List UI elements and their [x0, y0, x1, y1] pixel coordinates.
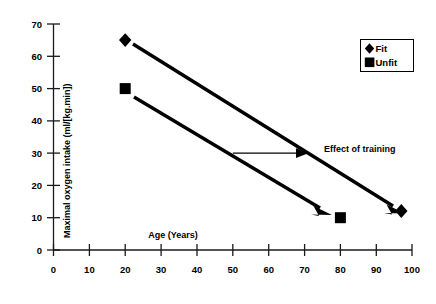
x-tick-label-90: 90	[371, 264, 382, 275]
oxygen-intake-vs-age-chart: 70 60 50 40 30 20 10 0 Maximal oxygen in…	[0, 0, 436, 304]
y-tick-label-70: 70	[31, 19, 42, 30]
chart-container: 70 60 50 40 30 20 10 0 Maximal oxygen in…	[0, 0, 436, 304]
y-axis-title: Maximal oxygen intake (ml/[kg.min])	[62, 83, 72, 238]
x-tick-label-0: 0	[51, 264, 56, 275]
x-tick-label-30: 30	[156, 264, 167, 275]
legend-label-fit: Fit	[376, 43, 388, 54]
x-tick-label-60: 60	[263, 264, 274, 275]
y-tick-label-40: 40	[31, 115, 42, 126]
y-tick-label-30: 30	[31, 148, 42, 159]
series-unfit-marker-start	[120, 83, 131, 94]
x-tick-label-10: 10	[84, 264, 95, 275]
effect-of-training-label: Effect of training	[324, 144, 396, 154]
x-tick-label-100: 100	[404, 264, 420, 275]
y-tick-label-0: 0	[37, 245, 42, 256]
y-tick-label-10: 10	[31, 212, 42, 223]
x-tick-label-50: 50	[228, 264, 239, 275]
x-tick-label-70: 70	[299, 264, 310, 275]
y-tick-label-20: 20	[31, 180, 42, 191]
x-tick-label-80: 80	[335, 264, 346, 275]
chart-legend[interactable]: Fit Unfit	[361, 40, 414, 72]
x-tick-label-20: 20	[120, 264, 131, 275]
series-unfit-marker-end	[335, 212, 346, 223]
legend-label-unfit: Unfit	[376, 57, 398, 68]
x-axis-title: Age (Years)	[148, 230, 198, 240]
legend-square-icon	[365, 58, 375, 68]
y-tick-label-60: 60	[31, 51, 42, 62]
legend-entry-unfit[interactable]: Unfit	[365, 57, 398, 68]
x-tick-label-40: 40	[192, 264, 203, 275]
y-tick-label-50: 50	[31, 83, 42, 94]
